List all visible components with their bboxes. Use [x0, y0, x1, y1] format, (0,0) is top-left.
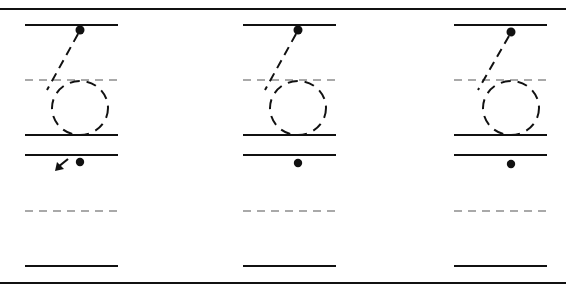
- practice-start-dot-icon: [76, 158, 84, 166]
- start-dot-icon: [76, 26, 85, 35]
- handwriting-worksheet: [0, 0, 566, 291]
- worksheet-canvas: [0, 0, 566, 291]
- digit-six-tracing-loop: [483, 81, 539, 135]
- practice-start-dot-icon: [294, 159, 302, 167]
- digit-six-tracing-loop: [52, 81, 108, 135]
- start-dot-icon: [507, 28, 516, 37]
- practice-start-dot-icon: [507, 160, 515, 168]
- start-dot-icon: [294, 26, 303, 35]
- digit-six-tracing-loop: [270, 81, 326, 135]
